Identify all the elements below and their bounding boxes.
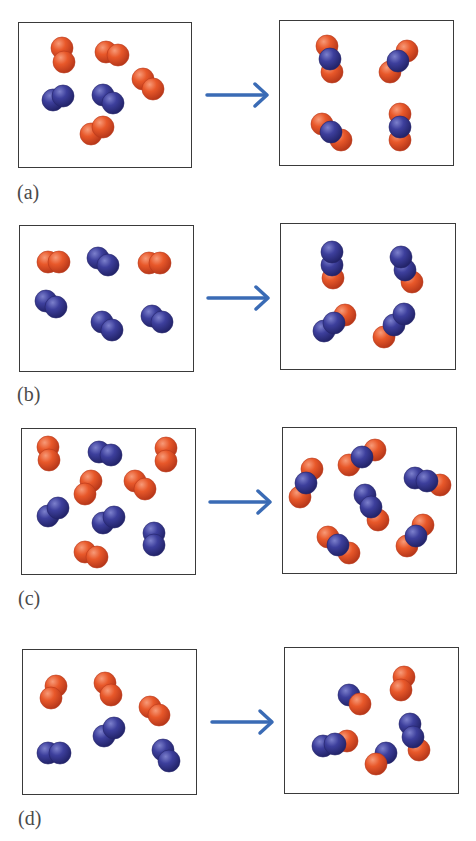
molecule-o2 xyxy=(51,37,75,73)
molecule-n2 xyxy=(87,247,119,276)
oxygen-atom xyxy=(134,478,156,500)
molecule-o2 xyxy=(40,675,67,709)
reaction-arrow-b xyxy=(208,287,268,309)
nitrogen-atom xyxy=(97,254,119,276)
nitrogen-atom xyxy=(49,742,71,764)
molecule-nno xyxy=(390,246,423,293)
molecule-n2 xyxy=(37,497,69,527)
oxygen-atom xyxy=(100,684,122,706)
molecule-n2 xyxy=(42,85,74,111)
molecule-nno xyxy=(404,467,451,496)
molecule-n2 xyxy=(37,742,71,764)
molecule-o2 xyxy=(94,672,122,706)
nitrogen-atom xyxy=(360,496,382,518)
molecule-o2 xyxy=(124,470,156,500)
molecule-o2 xyxy=(132,68,164,100)
oxygen-atom xyxy=(148,704,170,726)
molecule-ono xyxy=(379,40,418,83)
molecule-n2 xyxy=(152,739,180,772)
nitrogen-atom xyxy=(324,733,346,755)
reaction-arrow-d xyxy=(212,711,272,733)
oxygen-atom xyxy=(365,753,387,775)
nitrogen-atom xyxy=(45,296,67,318)
nitrogen-atom xyxy=(102,92,124,114)
nitrogen-atom xyxy=(387,50,409,72)
molecule-no xyxy=(338,684,371,715)
nitrogen-atom xyxy=(393,303,415,325)
molecule-nno xyxy=(399,713,430,761)
oxygen-atom xyxy=(40,687,62,709)
molecule-o2 xyxy=(37,251,70,273)
nitrogen-atom xyxy=(320,121,342,143)
molecule-o2 xyxy=(155,437,177,472)
molecule-ono xyxy=(316,35,343,83)
oxygen-atom xyxy=(86,546,108,568)
oxygen-atom xyxy=(142,78,164,100)
molecule-n2 xyxy=(35,290,67,318)
molecule-n2 xyxy=(141,305,173,333)
oxygen-atom xyxy=(149,252,171,274)
nitrogen-atom xyxy=(295,472,317,494)
molecule-ono xyxy=(317,526,360,564)
nitrogen-atom xyxy=(101,319,123,341)
nitrogen-atom xyxy=(402,726,424,748)
molecule-scene xyxy=(0,0,476,841)
nitrogen-atom xyxy=(103,506,125,528)
molecule-nno xyxy=(373,303,415,348)
nitrogen-atom xyxy=(143,534,165,556)
oxygen-atom xyxy=(390,679,412,701)
molecule-ono xyxy=(396,514,434,557)
molecule-nno xyxy=(313,304,356,342)
nitrogen-atom xyxy=(351,446,373,468)
molecule-nno xyxy=(312,730,358,757)
molecule-ono xyxy=(389,103,411,151)
molecule-o2 xyxy=(139,696,170,726)
oxygen-atom xyxy=(74,483,96,505)
oxygen-atom xyxy=(349,693,371,715)
molecule-n2 xyxy=(88,441,122,466)
molecule-o2 xyxy=(95,41,129,66)
nitrogen-atom xyxy=(47,497,69,519)
molecule-o2 xyxy=(74,470,102,505)
oxygen-atom xyxy=(107,44,129,66)
oxygen-atom xyxy=(38,449,60,471)
molecule-o2 xyxy=(37,436,60,471)
molecules xyxy=(35,35,451,775)
nitrogen-atom xyxy=(158,750,180,772)
molecule-no xyxy=(365,742,397,775)
nitrogen-atom xyxy=(389,116,411,138)
molecule-n2 xyxy=(92,84,124,114)
molecule-n2 xyxy=(93,717,125,747)
molecule-n2 xyxy=(91,311,123,341)
nitrogen-atom xyxy=(52,85,74,107)
oxygen-atom xyxy=(155,450,177,472)
oxygen-atom xyxy=(48,251,70,273)
reaction-arrows xyxy=(207,84,272,733)
nitrogen-atom xyxy=(416,470,438,492)
molecule-o2 xyxy=(74,541,108,568)
nitrogen-atom xyxy=(103,717,125,739)
molecule-n2 xyxy=(92,506,125,534)
molecule-ono xyxy=(338,439,386,476)
oxygen-atom xyxy=(92,116,114,138)
nitrogen-atom xyxy=(323,312,345,334)
nitrogen-atom xyxy=(100,444,122,466)
nitrogen-atom xyxy=(405,525,427,547)
nitrogen-atom xyxy=(151,311,173,333)
reaction-arrow-c xyxy=(210,491,270,513)
oxygen-atom xyxy=(53,51,75,73)
nitrogen-atom xyxy=(390,246,412,268)
molecule-o2 xyxy=(138,252,171,274)
nitrogen-atom xyxy=(321,241,343,263)
molecule-n2 xyxy=(143,522,165,556)
molecule-nno xyxy=(354,484,389,531)
reaction-arrow-a xyxy=(207,84,267,106)
molecule-nno xyxy=(321,241,344,289)
nitrogen-atom xyxy=(319,48,341,70)
molecule-ono xyxy=(289,458,323,508)
molecule-o2 xyxy=(390,666,415,701)
nitrogen-atom xyxy=(327,534,349,556)
molecule-ono xyxy=(311,113,352,151)
molecule-o2 xyxy=(80,116,114,145)
